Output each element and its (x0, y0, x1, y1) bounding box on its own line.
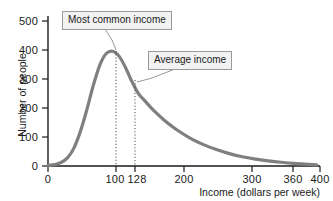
x-axis-tick-labels: 0 100 128 200 300 360 400 (45, 173, 330, 185)
x-tick-label-300: 300 (243, 173, 262, 185)
x-tick-label-400: 400 (311, 173, 330, 185)
x-axis-ticks (48, 166, 320, 172)
y-axis-ticks (42, 21, 48, 166)
x-tick-label-128: 128 (128, 173, 147, 185)
x-axis-title: Income (dollars per week) (199, 186, 320, 198)
chart-canvas: 0 100 200 300 400 500 0 100 128 200 300 … (0, 0, 333, 201)
annotation-average-income: Average income (148, 51, 232, 70)
x-tick-label-360: 360 (284, 173, 303, 185)
income-distribution-chart: 0 100 200 300 400 500 0 100 128 200 300 … (0, 0, 333, 201)
leader-line-most-common-income (105, 29, 116, 50)
y-axis-title: Number of people (16, 53, 28, 137)
x-tick-label-0: 0 (45, 173, 51, 185)
x-tick-label-100: 100 (106, 173, 125, 185)
y-tick-label-0: 0 (32, 160, 38, 172)
y-tick-label-500: 500 (19, 15, 38, 27)
annotation-most-common-income: Most common income (62, 11, 172, 30)
leader-line-average-income (137, 69, 175, 82)
x-tick-label-200: 200 (175, 173, 194, 185)
